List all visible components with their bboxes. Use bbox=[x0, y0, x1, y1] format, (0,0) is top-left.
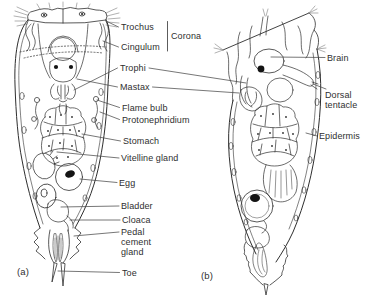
body-outline-b bbox=[229, 49, 321, 262]
label-toe: Toe bbox=[122, 268, 137, 278]
figure-b-drawing bbox=[214, 6, 326, 295]
egg-shape bbox=[34, 164, 82, 210]
body-wall-a bbox=[19, 24, 106, 224]
flame-bulb-leader-line bbox=[97, 100, 120, 108]
label-bladder: Bladder bbox=[121, 201, 153, 211]
vitelline-gland-leader-line bbox=[57, 152, 119, 158]
label-pedal-cement-gland: Pedal cement gland bbox=[121, 227, 161, 257]
brain-leader-line bbox=[271, 57, 325, 58]
diagram-artwork bbox=[0, 0, 380, 296]
mastax-leader-line-right bbox=[153, 87, 240, 93]
corona-band bbox=[28, 8, 107, 24]
foot-a bbox=[34, 228, 81, 286]
stomach-shape bbox=[41, 106, 86, 166]
label-egg: Egg bbox=[119, 178, 135, 188]
label-trophi: Trophi bbox=[120, 63, 146, 73]
label-stomach: Stomach bbox=[123, 136, 159, 146]
head-lobes-a bbox=[26, 21, 109, 78]
corona-edge-b bbox=[214, 6, 326, 53]
label-vitelline-gland: Vitelline gland bbox=[121, 153, 178, 163]
egg-shape-b bbox=[241, 190, 273, 222]
vitelline-gland-shape-b bbox=[263, 165, 297, 202]
label-mastax: Mastax bbox=[120, 82, 150, 92]
toe-leader-line bbox=[58, 271, 120, 273]
bladder-leader-line bbox=[61, 206, 119, 207]
foot-b bbox=[244, 242, 288, 295]
stomach-shape-b bbox=[251, 104, 299, 166]
vitelline-gland-shape bbox=[31, 151, 59, 181]
dorsal-tentacle-leader-line bbox=[313, 84, 326, 89]
head-lobes-b bbox=[227, 22, 314, 101]
label-cingulum: Cingulum bbox=[121, 42, 160, 52]
figure-a-drawing bbox=[14, 2, 120, 286]
label-corona: Corona bbox=[171, 31, 201, 41]
cingulum-leader-line bbox=[103, 41, 119, 47]
label-brain: Brain bbox=[327, 53, 349, 63]
mastax-shape-b bbox=[240, 76, 262, 111]
panel-a-tag: (a) bbox=[17, 267, 29, 278]
label-trochus: Trochus bbox=[121, 22, 154, 32]
label-cloaca: Cloaca bbox=[122, 215, 151, 225]
label-dorsal-tentacle: Dorsal tentacle bbox=[325, 90, 371, 110]
rotifer-anatomy-diagram: Trochus Cingulum Corona Trophi Mastax Fl… bbox=[0, 0, 380, 296]
mastax-shape bbox=[50, 38, 77, 83]
label-epidermis: Epidermis bbox=[319, 131, 360, 141]
trophi-shape bbox=[50, 84, 75, 114]
label-protonephridium: Protonephridium bbox=[122, 115, 190, 125]
dorsal-tentacle-shape bbox=[283, 65, 318, 89]
leader-lines bbox=[57, 21, 326, 273]
stomach-leader-line bbox=[82, 134, 121, 141]
neck-dotted-line bbox=[20, 46, 106, 58]
trophi-leader-line-left bbox=[74, 68, 118, 90]
label-flame-bulb: Flame bulb bbox=[122, 103, 168, 113]
panel-b-tag: (b) bbox=[201, 271, 213, 282]
egg-leader-line bbox=[80, 179, 117, 183]
trophi-leader-line-right bbox=[149, 68, 246, 83]
bladder-shape bbox=[47, 200, 73, 231]
